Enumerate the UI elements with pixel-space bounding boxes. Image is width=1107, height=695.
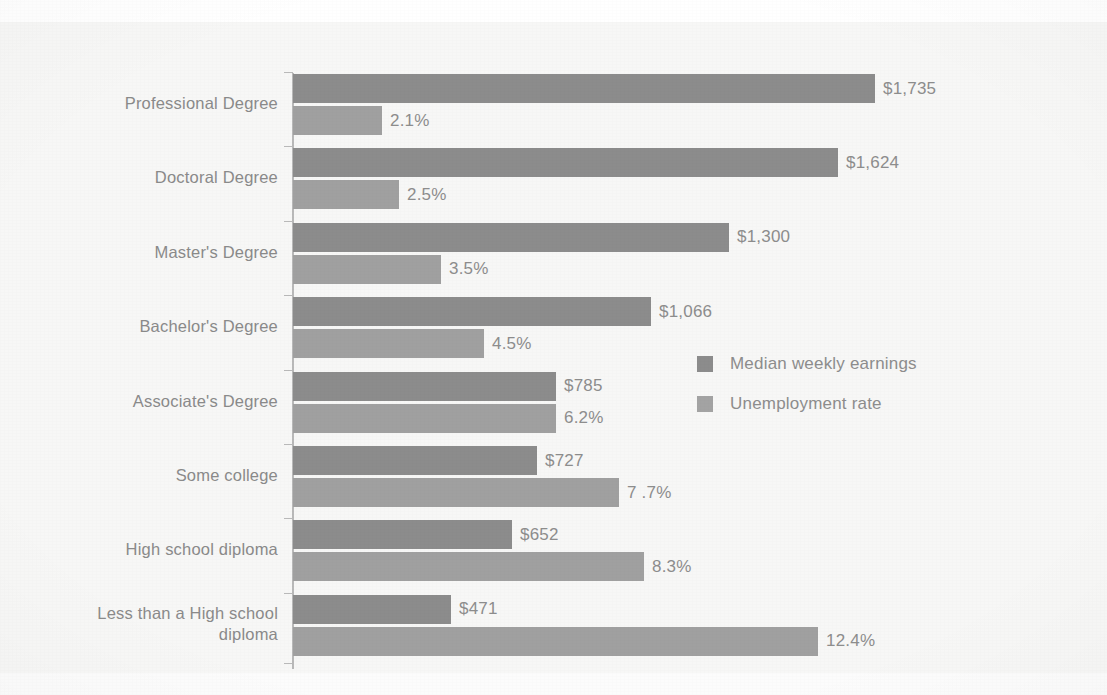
bar-value-unemployment: 2.5% — [407, 185, 447, 205]
plot-area: Professional Degree$1,7352.1%Doctoral De… — [0, 0, 1107, 695]
axis-tick — [284, 518, 293, 519]
axis-tick — [284, 444, 293, 445]
bar-median-weekly-earnings — [293, 595, 451, 624]
axis-tick-end — [284, 663, 293, 664]
bar-value-unemployment: 2.1% — [390, 111, 430, 131]
bar-value-unemployment: 7 .7% — [627, 483, 671, 503]
bar-median-weekly-earnings — [293, 223, 729, 252]
bar-value-earnings: $785 — [564, 376, 603, 396]
legend-item-unemployment: Unemployment rate — [697, 384, 917, 424]
category-label: High school diploma — [10, 539, 278, 560]
bar-unemployment-rate — [293, 478, 619, 507]
bar-value-unemployment: 8.3% — [652, 557, 692, 577]
bar-unemployment-rate — [293, 627, 818, 656]
legend-label-earnings: Median weekly earnings — [730, 354, 917, 374]
category-label: Professional Degree — [10, 93, 278, 114]
bar-value-earnings: $1,066 — [659, 302, 712, 322]
axis-tick — [284, 146, 293, 147]
category-label: Some college — [10, 465, 278, 486]
bar-value-unemployment: 4.5% — [492, 334, 532, 354]
bar-value-earnings: $727 — [545, 451, 584, 471]
legend-item-earnings: Median weekly earnings — [697, 344, 917, 384]
bar-median-weekly-earnings — [293, 74, 875, 103]
bar-value-earnings: $1,300 — [737, 227, 790, 247]
bar-value-earnings: $471 — [459, 599, 498, 619]
category-label: Bachelor's Degree — [10, 316, 278, 337]
category-label: Master's Degree — [10, 242, 278, 263]
legend-swatch-unemployment — [697, 396, 713, 412]
category-label: Associate's Degree — [10, 391, 278, 412]
axis-tick — [284, 295, 293, 296]
bar-unemployment-rate — [293, 180, 399, 209]
bar-median-weekly-earnings — [293, 297, 651, 326]
bar-unemployment-rate — [293, 552, 644, 581]
bar-unemployment-rate — [293, 255, 441, 284]
axis-tick — [284, 72, 293, 73]
bar-median-weekly-earnings — [293, 520, 512, 549]
axis-tick — [284, 593, 293, 594]
bar-unemployment-rate — [293, 106, 382, 135]
bar-value-unemployment: 3.5% — [449, 259, 489, 279]
axis-tick — [284, 370, 293, 371]
bar-median-weekly-earnings — [293, 372, 556, 401]
legend-label-unemployment: Unemployment rate — [730, 394, 882, 414]
bar-chart: Professional Degree$1,7352.1%Doctoral De… — [0, 0, 1107, 695]
chart-legend: Median weekly earnings Unemployment rate — [697, 344, 917, 424]
bar-value-unemployment: 6.2% — [564, 408, 604, 428]
bar-median-weekly-earnings — [293, 446, 537, 475]
category-label: Doctoral Degree — [10, 167, 278, 188]
bar-unemployment-rate — [293, 329, 484, 358]
axis-tick — [284, 221, 293, 222]
bar-value-earnings: $1,624 — [846, 153, 899, 173]
bar-value-earnings: $652 — [520, 525, 559, 545]
legend-swatch-earnings — [697, 356, 713, 372]
bar-unemployment-rate — [293, 404, 556, 433]
category-label: Less than a High school diploma — [10, 603, 278, 645]
bar-value-unemployment: 12.4% — [826, 631, 875, 651]
bar-value-earnings: $1,735 — [883, 79, 936, 99]
bar-median-weekly-earnings — [293, 148, 838, 177]
